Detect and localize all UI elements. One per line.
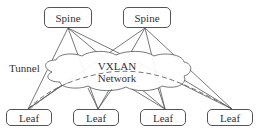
vxlan-label-line1: VXLAN — [77, 60, 157, 72]
spine-node-2: Spine — [123, 7, 171, 28]
leaf-node-3: Leaf — [140, 109, 186, 126]
leaf-node-2: Leaf — [73, 109, 119, 126]
vxlan-network-label: VXLAN Network — [77, 60, 157, 84]
leaf-node-1: Leaf — [6, 109, 52, 126]
spine-node-1: Spine — [44, 7, 92, 28]
spine-leaf-vxlan-diagram: Spine Spine VXLAN Network Tunnel Leaf Le… — [0, 0, 257, 135]
tunnel-label: Tunnel — [9, 62, 40, 74]
leaf-node-4: Leaf — [207, 109, 253, 126]
vxlan-label-line2: Network — [77, 72, 157, 84]
